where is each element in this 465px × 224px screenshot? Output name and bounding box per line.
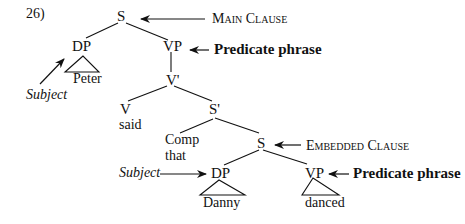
node-comp: Comp <box>165 133 199 147</box>
word-said: said <box>119 118 142 132</box>
node-dp-main: DP <box>72 39 91 54</box>
node-v-bar: V' <box>166 73 180 88</box>
word-danny: Danny <box>203 196 240 210</box>
syntax-tree-diagram: 26) S Main Clause DP VP Predicate phrase… <box>0 0 465 224</box>
label-subject-embedded: Subject <box>119 166 160 180</box>
node-vp-main: VP <box>163 39 182 54</box>
tree-lines <box>0 0 465 224</box>
example-number: 26) <box>26 7 45 21</box>
word-danced: danced <box>305 196 345 210</box>
label-predicate-phrase-embedded: Predicate phrase <box>353 166 461 181</box>
node-s-bar: S' <box>209 102 220 117</box>
node-s-root: S <box>117 9 125 24</box>
node-v: V <box>120 102 131 117</box>
label-subject-main: Subject <box>26 88 67 102</box>
word-peter: Peter <box>73 72 102 86</box>
label-main-clause: Main Clause <box>212 12 287 26</box>
word-that: that <box>165 149 186 163</box>
label-predicate-phrase-main: Predicate phrase <box>214 42 322 57</box>
node-dp-embedded: DP <box>211 166 230 181</box>
node-vp-embedded: VP <box>305 166 324 181</box>
label-embedded-clause: Embedded Clause <box>306 139 409 153</box>
node-s-embedded: S <box>257 136 265 151</box>
